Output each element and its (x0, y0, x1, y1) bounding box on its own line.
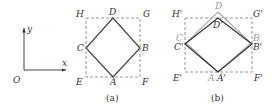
dashed-square-efgh (86, 18, 140, 77)
label-f: F (141, 77, 149, 87)
diagram-canvas: y x O H D G C B E A F (a) H' D D' G' C C… (0, 0, 277, 112)
label-h-prime: H' (171, 9, 182, 19)
label-e-prime: E' (172, 73, 182, 83)
label-d-prime: D' (212, 20, 223, 30)
label-a: A (109, 77, 117, 87)
label-a-prime: A' (216, 73, 226, 83)
label-e: E (75, 77, 83, 87)
figure-a: H D G C B E A F (a) (75, 7, 150, 103)
caption-b: (b) (211, 93, 224, 103)
label-c-prime: C' (174, 42, 183, 52)
label-g-prime: G' (253, 9, 263, 19)
label-h: H (75, 9, 84, 19)
figure-b: H' D D' G' C C' B B' E' A A' F' (b) (171, 1, 263, 103)
label-a: A (207, 73, 215, 83)
caption-a: (a) (106, 93, 118, 103)
square-abcd (86, 18, 140, 77)
coordinate-axes: y x O (13, 24, 67, 85)
origin-label: O (13, 75, 21, 85)
label-f-prime: F' (253, 73, 263, 83)
y-axis-label: y (26, 24, 33, 34)
label-d: D (108, 7, 116, 17)
x-axis-label: x (62, 58, 67, 68)
label-g: G (143, 9, 150, 19)
label-b-prime: B' (252, 42, 262, 52)
label-d: D (214, 1, 222, 11)
label-c: C (77, 43, 84, 53)
label-b: B (141, 43, 149, 53)
